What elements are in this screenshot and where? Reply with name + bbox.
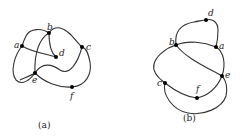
label-a: a [219,41,224,51]
figure-b-bottom-loop [164,76,226,114]
figure-a-inner-strand-bd [49,33,56,57]
label-a: a [14,40,19,50]
point-d [54,55,58,59]
point-d [204,18,208,22]
label-b: b [47,22,53,32]
point-c [163,81,167,85]
point-e [220,74,224,78]
label-c: c [86,42,91,52]
label-c: c [157,78,162,88]
figure-b-middle-band [165,42,224,98]
point-f [195,96,199,100]
knot-diagrams: a b c d e f d b a e c f (a) (b) [0,0,242,140]
caption-b: (b) [183,113,196,123]
label-d: d [208,8,214,18]
figure-b [154,19,227,113]
label-f: f [195,84,201,94]
label-e: e [225,70,230,80]
caption-a: (a) [38,120,50,130]
figure-a [13,28,90,87]
point-c [80,45,84,49]
label-d: d [59,48,65,58]
point-f [70,85,74,89]
point-a [20,44,24,48]
figure-a-points: a b c d e f [14,22,91,101]
label-b: b [169,37,175,47]
figure-b-diagonal [176,45,222,76]
label-f: f [69,91,75,101]
point-a [214,45,218,49]
label-e: e [32,75,37,85]
